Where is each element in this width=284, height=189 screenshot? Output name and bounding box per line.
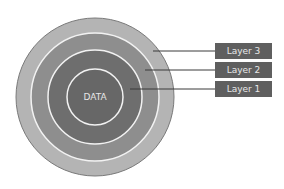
layer-2-label: Layer 2 [215,62,272,78]
layer-1-label: Layer 1 [215,81,272,97]
data-label: DATA [83,92,107,102]
layer-3-label: Layer 3 [215,43,272,59]
